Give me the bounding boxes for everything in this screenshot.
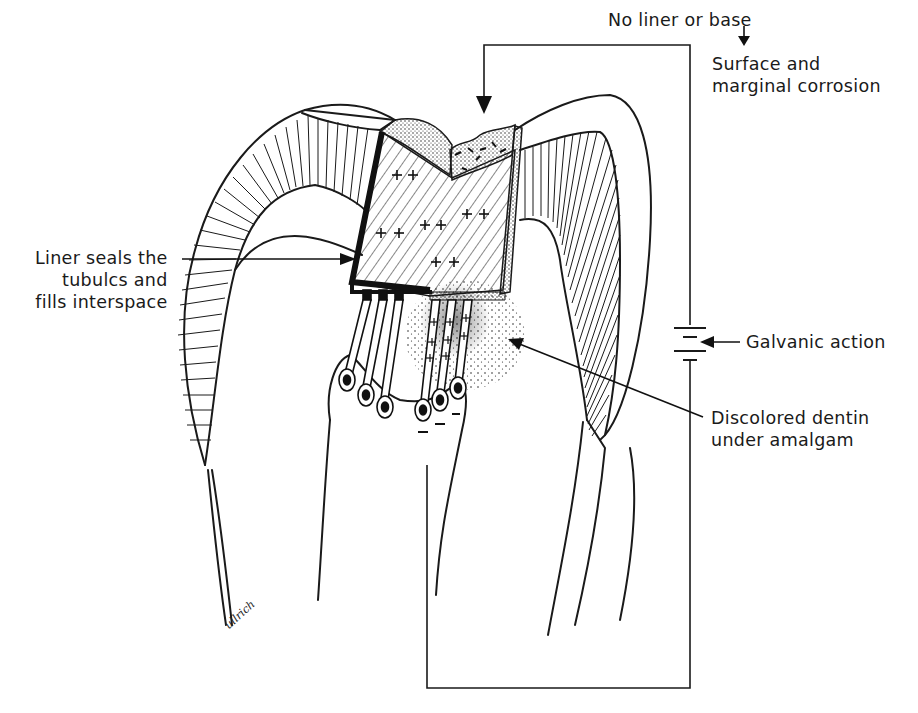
no-liner-arrow [738, 36, 750, 46]
galvanic-arrow [700, 336, 714, 348]
odontoblasts-sealed [339, 290, 403, 418]
label-galvanic: Galvanic action [746, 331, 886, 353]
tooth-diagram [0, 0, 918, 713]
corrosion-arrow [476, 96, 492, 114]
right-enamel-hatching [525, 131, 620, 436]
amalgam-restoration [352, 119, 522, 300]
left-enamel-hatching [178, 115, 368, 440]
label-discolored: Discolored dentin under amalgam [711, 407, 869, 451]
left-dej [205, 185, 365, 465]
label-corrosion: Surface and marginal corrosion [712, 53, 881, 97]
label-liner: Liner seals the tubulcs and fills inters… [35, 247, 168, 313]
label-no-liner: No liner or base [608, 9, 752, 31]
